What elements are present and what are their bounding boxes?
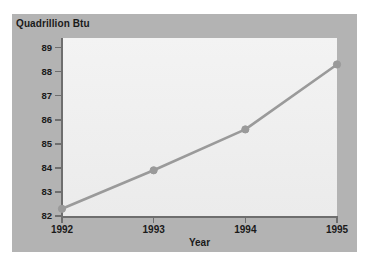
y-tick-label-wrap: 84 (14, 162, 52, 174)
x-tick-label: 1995 (307, 224, 367, 235)
y-tick-mark (55, 143, 61, 145)
y-tick-label: 86 (18, 114, 52, 125)
y-tick-mark (55, 119, 61, 121)
y-tick-label-wrap: 89 (14, 42, 52, 54)
y-tick-mark (55, 47, 61, 49)
x-tick-label: 1993 (124, 224, 184, 235)
y-tick-label-wrap: 85 (14, 138, 52, 150)
y-tick-label: 89 (18, 42, 52, 53)
y-tick-label: 88 (18, 66, 52, 77)
y-tick-label-wrap: 86 (14, 114, 52, 126)
y-tick-label: 87 (18, 90, 52, 101)
chart-figure: Quadrillion Btu 8283848586878889 1992199… (0, 0, 371, 264)
x-tick-mark (61, 217, 63, 223)
plot-area (62, 38, 337, 216)
y-tick-label-wrap: 82 (14, 210, 52, 222)
plot-background (62, 38, 337, 216)
y-tick-label-wrap: 88 (14, 66, 52, 78)
y-tick-mark (55, 167, 61, 169)
chart-title: Quadrillion Btu (16, 18, 90, 29)
x-tick-mark (245, 217, 247, 223)
y-tick-mark (55, 71, 61, 73)
y-axis-line (61, 38, 63, 217)
y-tick-mark (55, 95, 61, 97)
y-tick-label: 85 (18, 138, 52, 149)
y-tick-mark (55, 215, 61, 217)
x-axis-line (61, 216, 338, 218)
y-tick-label: 83 (18, 186, 52, 197)
x-axis-title: Year (62, 237, 337, 248)
y-tick-label-wrap: 83 (14, 186, 52, 198)
x-tick-mark (336, 217, 338, 223)
x-tick-label: 1992 (32, 224, 92, 235)
y-tick-label: 82 (18, 210, 52, 221)
y-tick-mark (55, 191, 61, 193)
x-tick-label: 1994 (215, 224, 275, 235)
x-tick-mark (153, 217, 155, 223)
y-tick-label: 84 (18, 162, 52, 173)
y-tick-label-wrap: 87 (14, 90, 52, 102)
